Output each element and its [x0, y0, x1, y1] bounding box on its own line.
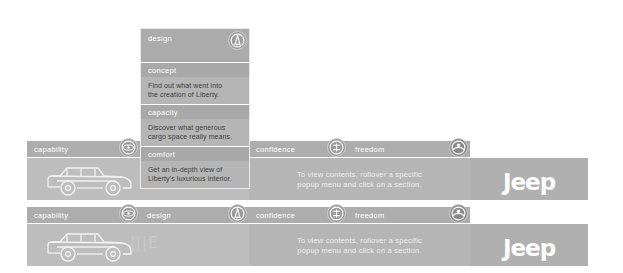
capability-wheel-icon[interactable] [119, 138, 138, 157]
tab-freedom-bottom[interactable]: freedom [348, 207, 470, 224]
freedom-sun-icon[interactable] [449, 138, 468, 157]
logo-panel-top: Jeep [470, 158, 588, 200]
popup-item-concept[interactable]: concept Find out what went into the crea… [141, 63, 249, 105]
popup-item-desc: Discover what generous cargo space reall… [141, 119, 249, 146]
popup-item-comfort[interactable]: comfort Get an in-depth view of Liberty'… [141, 147, 249, 188]
rollover-hint-text: To view contents, rollover a specific po… [249, 170, 470, 190]
popup-item-title: capacity [141, 105, 249, 119]
jeep-wordmark: Jeep [470, 235, 588, 261]
tab-label: capability [34, 211, 68, 220]
tab-freedom-top[interactable]: freedom [348, 141, 470, 158]
tab-label: freedom [355, 145, 385, 154]
tab-capability-top[interactable]: capability [27, 141, 140, 158]
tab-label: design [147, 211, 171, 220]
design-compass-icon[interactable] [228, 204, 247, 223]
logo-panel-bottom: Jeep [470, 224, 588, 266]
design-compass-icon[interactable] [228, 31, 247, 50]
confidence-shield-icon[interactable] [327, 204, 346, 223]
jeep-liberty-outline [43, 229, 135, 267]
stage-hint-bottom: To view contents, rollover a specific po… [249, 224, 470, 266]
tab-label: capability [34, 145, 68, 154]
decor-glyphs: |||E [130, 234, 159, 252]
popup-item-desc: Get an in-depth view of Liberty's luxuri… [141, 161, 249, 188]
stage-hint-top: To view contents, rollover a specific po… [249, 158, 470, 200]
popup-menu-design[interactable]: design concept Find out what went into t… [140, 28, 250, 189]
popup-item-title: concept [141, 63, 249, 77]
tab-confidence-top[interactable]: confidence [249, 141, 348, 158]
tab-label: confidence [256, 145, 295, 154]
confidence-shield-icon[interactable] [327, 138, 346, 157]
jeep-liberty-outline [43, 163, 135, 201]
stage-capability-bottom: |||E [27, 224, 249, 266]
popup-item-title: comfort [141, 147, 249, 161]
rollover-hint-text: To view contents, rollover a specific po… [249, 236, 470, 256]
freedom-sun-icon[interactable] [449, 204, 468, 223]
tab-design-bottom[interactable]: design [140, 207, 249, 224]
tab-label: confidence [256, 211, 295, 220]
popup-menu-header[interactable]: design [141, 29, 249, 63]
tab-capability-bottom[interactable]: capability [27, 207, 140, 224]
tab-confidence-bottom[interactable]: confidence [249, 207, 348, 224]
jeep-wordmark: Jeep [470, 169, 588, 195]
popup-item-capacity[interactable]: capacity Discover what generous cargo sp… [141, 105, 249, 147]
popup-header-label: design [148, 34, 172, 43]
popup-item-desc: Find out what went into the creation of … [141, 77, 249, 104]
capability-wheel-icon[interactable] [119, 204, 138, 223]
tab-label: freedom [355, 211, 385, 220]
